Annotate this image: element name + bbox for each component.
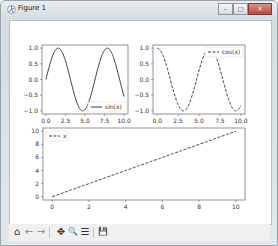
title-bar[interactable]: Figure 1 – □ ✕ [1, 1, 277, 19]
y-tick-label: −0.5 [23, 91, 38, 98]
y-tick-label: 2 [35, 180, 39, 187]
sliders-icon: ☰ [81, 226, 90, 237]
save-button[interactable]: 💾 [97, 226, 109, 238]
x-tick-label: 5.0 [194, 117, 204, 124]
y-tick-label: 0 [35, 193, 39, 200]
arrow-left-icon: ← [25, 226, 33, 237]
y-tick-label: 0.5 [139, 60, 149, 67]
x-tick-label: 4 [124, 203, 128, 210]
figure-canvas[interactable]: 0.02.55.07.510.0−1.0−0.50.00.51.0sin(x)0… [9, 20, 272, 225]
minimize-button[interactable]: – [218, 3, 233, 15]
x-tick-label: 10.0 [117, 117, 131, 124]
legend: x [46, 131, 68, 141]
matplotlib-logo-icon [7, 5, 16, 14]
subplot-3[interactable]: 02468100246810x [31, 127, 245, 210]
y-tick-label: −1.0 [23, 107, 38, 114]
x-tick-label: 2.5 [61, 117, 71, 124]
close-button[interactable]: ✕ [248, 3, 272, 15]
x-tick-label: 10.0 [234, 117, 248, 124]
y-tick-label: 1.0 [28, 44, 38, 51]
back-button[interactable]: ← [23, 226, 35, 238]
pan-button[interactable]: ✥ [55, 226, 67, 238]
toolbar-separator [93, 227, 94, 238]
x-tick-label: 0.0 [152, 117, 162, 124]
magnifier-icon: 🔍 [68, 227, 78, 236]
series-line [52, 131, 236, 196]
subplot-1[interactable]: 0.02.55.07.510.0−1.0−0.50.00.51.0sin(x) [23, 44, 131, 124]
figure-window: Figure 1 – □ ✕ 0.02.55.07.510.0−1.0−0.50… [0, 0, 278, 246]
x-tick-label: 8 [197, 203, 201, 210]
home-button[interactable]: ⌂ [11, 226, 23, 238]
maximize-button[interactable]: □ [233, 3, 248, 15]
series-line [157, 48, 241, 111]
x-tick-label: 0 [50, 203, 54, 210]
move-icon: ✥ [57, 226, 65, 237]
legend-label: cos(x) [222, 48, 240, 55]
x-tick-label: 2 [87, 203, 91, 210]
home-icon: ⌂ [14, 226, 20, 237]
floppy-icon: 💾 [98, 227, 108, 236]
y-tick-label: −0.5 [134, 91, 149, 98]
y-tick-label: 8 [35, 140, 39, 147]
x-tick-label: 7.5 [100, 117, 110, 124]
y-tick-label: 0.0 [28, 76, 38, 83]
subplots-button[interactable]: ☰ [79, 226, 91, 238]
x-tick-label: 2.5 [173, 117, 183, 124]
zoom-button[interactable]: 🔍 [67, 226, 79, 238]
toolbar-separator [49, 227, 50, 238]
y-tick-label: 0.0 [139, 76, 149, 83]
y-tick-label: 6 [35, 153, 39, 160]
x-tick-label: 6 [160, 203, 164, 210]
navigation-toolbar: ⌂ ← → ✥ 🔍 ☰ 💾 [9, 224, 270, 241]
series-line [46, 48, 124, 111]
legend-label: x [63, 132, 67, 139]
x-tick-label: 10 [232, 203, 240, 210]
x-tick-label: 0.0 [41, 117, 51, 124]
legend-label: sin(x) [105, 103, 122, 110]
arrow-right-icon: → [37, 226, 45, 237]
y-tick-label: 0.5 [28, 60, 38, 67]
forward-button[interactable]: → [35, 226, 47, 238]
y-tick-label: 10 [31, 127, 39, 134]
y-tick-label: 1.0 [139, 44, 149, 51]
legend: sin(x) [88, 102, 126, 112]
y-tick-label: 4 [35, 167, 39, 174]
legend: cos(x) [205, 47, 243, 57]
window-title: Figure 1 [18, 4, 46, 12]
x-tick-label: 5.0 [80, 117, 90, 124]
x-tick-label: 7.5 [215, 117, 225, 124]
y-tick-label: −1.0 [134, 107, 149, 114]
subplot-2[interactable]: 0.02.55.07.510.0−1.0−0.50.00.51.0cos(x) [134, 44, 247, 124]
